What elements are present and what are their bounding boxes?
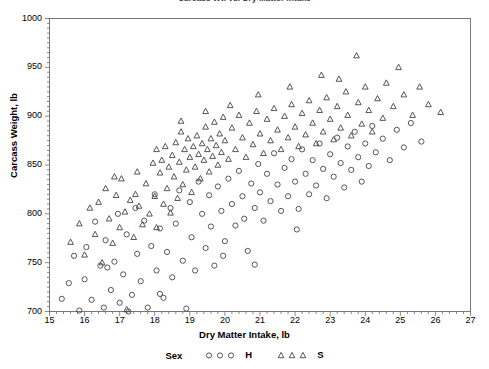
x-tick-label: 19	[175, 315, 205, 325]
data-point-circle	[268, 199, 273, 204]
data-point-circle	[345, 144, 350, 149]
data-point-circle	[264, 171, 269, 176]
data-point-circle	[324, 196, 329, 201]
legend-title: Sex	[165, 350, 182, 361]
data-point-triangle	[220, 114, 226, 119]
data-point-circle	[419, 139, 424, 144]
y-tick-label: 850	[8, 159, 42, 169]
data-point-circle	[294, 227, 299, 232]
y-tick-label: 1000	[8, 13, 42, 23]
data-point-circle	[408, 120, 413, 125]
x-tick-label: 24	[350, 315, 380, 325]
data-point-triangle	[255, 92, 261, 97]
data-point-triangle	[147, 211, 153, 216]
data-point-circle	[105, 265, 110, 270]
data-point-circle	[157, 291, 162, 296]
x-tick-label: 20	[210, 315, 240, 325]
legend-entry-H[interactable]: H	[204, 349, 252, 360]
data-point-circle	[154, 268, 159, 273]
data-point-circle	[356, 155, 361, 160]
data-point-circle	[226, 176, 231, 181]
data-point-triangle	[282, 113, 288, 118]
data-point-circle	[240, 194, 245, 199]
data-point-triangle	[203, 124, 209, 129]
data-point-circle	[77, 308, 82, 313]
data-point-triangle	[194, 133, 200, 138]
data-point-triangle	[157, 170, 163, 175]
legend-label: S	[317, 349, 323, 360]
data-point-triangle	[264, 116, 270, 121]
x-tick-label: 21	[245, 315, 275, 325]
data-point-circle	[289, 157, 294, 162]
data-point-circle	[366, 163, 371, 168]
data-point-triangle	[103, 185, 109, 190]
data-point-triangle	[215, 162, 221, 167]
data-point-circle	[222, 239, 227, 244]
legend-label: H	[245, 349, 252, 360]
data-point-triangle	[212, 119, 218, 124]
data-point-triangle	[354, 53, 360, 58]
data-point-circle	[108, 287, 113, 292]
data-point-circle	[112, 259, 117, 264]
y-tick-label: 800	[8, 208, 42, 218]
data-point-circle	[66, 281, 71, 286]
data-point-circle	[310, 158, 315, 163]
data-point-triangle	[299, 110, 305, 115]
data-point-circle	[101, 305, 106, 310]
data-point-circle	[380, 136, 385, 141]
data-point-triangle	[203, 108, 209, 113]
data-point-triangle	[166, 164, 172, 169]
data-point-triangle	[183, 167, 189, 172]
data-point-circle	[115, 211, 120, 216]
data-point-circle	[245, 248, 250, 253]
data-point-circle	[203, 245, 208, 250]
data-point-triangle	[303, 132, 309, 137]
data-point-circle	[177, 188, 182, 193]
data-point-triangle	[338, 125, 344, 130]
data-point-triangle	[76, 221, 82, 226]
data-point-circle	[257, 190, 262, 195]
data-point-triangle	[289, 101, 295, 106]
data-point-triangle	[261, 150, 267, 155]
data-point-triangle	[117, 224, 123, 229]
data-point-triangle	[334, 103, 340, 108]
x-tick-label: 23	[315, 315, 345, 325]
scatter-plot-figure: Carcass Wt. vs. Dry Matter Intake Carcas…	[0, 0, 489, 369]
data-point-triangle	[247, 120, 253, 125]
data-point-triangle	[87, 205, 93, 210]
data-point-circle	[321, 166, 326, 171]
data-point-triangle	[227, 102, 233, 107]
x-axis-title: Dry Matter Intake, lb	[0, 329, 489, 340]
data-point-circle	[275, 182, 280, 187]
data-point-triangle	[169, 152, 175, 157]
data-point-triangle	[229, 125, 235, 130]
data-point-triangle	[438, 109, 444, 114]
data-point-circle	[170, 275, 175, 280]
data-point-circle	[89, 297, 94, 302]
data-point-triangle	[178, 129, 184, 134]
data-point-triangle	[417, 84, 423, 89]
data-point-triangle	[254, 108, 260, 113]
y-tick-label: 700	[8, 306, 42, 316]
data-point-circle	[84, 244, 89, 249]
data-point-triangle	[164, 185, 170, 190]
data-point-triangle	[189, 189, 195, 194]
data-point-triangle	[175, 195, 181, 200]
x-tick-label: 15	[35, 315, 65, 325]
data-point-triangle	[396, 64, 402, 69]
data-point-triangle	[380, 115, 386, 120]
data-point-circle	[129, 292, 134, 297]
data-point-triangle	[119, 176, 125, 181]
data-point-triangle	[154, 224, 160, 229]
data-point-circle	[256, 161, 261, 166]
data-point-triangle	[317, 107, 323, 112]
legend-entry-S[interactable]: S	[276, 349, 323, 360]
x-tick-label: 26	[420, 315, 450, 325]
data-point-circle	[342, 185, 347, 190]
data-point-triangle	[182, 146, 188, 151]
data-point-triangle	[171, 174, 177, 179]
data-point-triangle	[401, 92, 407, 97]
plot-canvas	[0, 0, 489, 369]
y-tick-label: 950	[8, 61, 42, 71]
data-points	[59, 53, 443, 315]
